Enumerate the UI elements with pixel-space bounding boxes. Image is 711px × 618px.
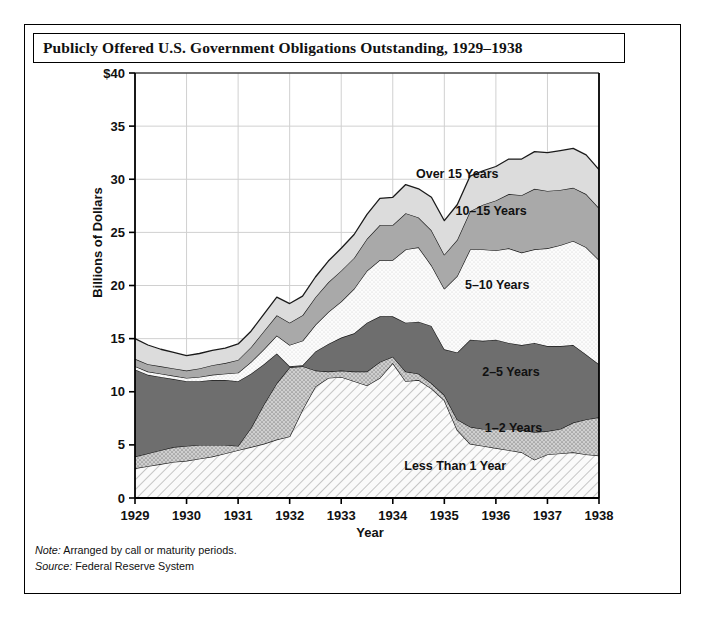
x-tick-label: 1932 (275, 508, 304, 523)
y-axis-title: Billions of Dollars (90, 163, 105, 323)
note-line: Note: Arranged by call or maturity perio… (35, 543, 237, 559)
y-tick-label: 5 (118, 437, 125, 452)
x-tick-label: 1938 (585, 508, 614, 523)
band-label: Over 15 Years (416, 167, 499, 181)
note-prefix: Note: (35, 544, 61, 556)
y-tick-label: $40 (103, 66, 125, 81)
band-label: Less Than 1 Year (404, 459, 506, 473)
x-axis-ticks: 1929193019311932193319341935193619371938 (121, 498, 614, 523)
note-body: Arranged by call or maturity periods. (61, 544, 237, 556)
x-axis-title: Year (135, 525, 605, 540)
x-tick-label: 1935 (430, 508, 459, 523)
source-line: Source: Federal Reserve System (35, 559, 237, 575)
y-tick-label: 15 (111, 331, 125, 346)
x-tick-label: 1933 (327, 508, 356, 523)
source-prefix: Source: (35, 560, 72, 572)
band-label: 1–2 Years (485, 421, 543, 435)
x-tick-label: 1936 (481, 508, 510, 523)
x-tick-label: 1934 (378, 508, 408, 523)
y-tick-label: 25 (111, 225, 125, 240)
y-tick-label: 30 (111, 172, 125, 187)
y-tick-label: 10 (111, 384, 125, 399)
figure-notes: Note: Arranged by call or maturity perio… (35, 543, 237, 574)
y-tick-label: 20 (111, 278, 125, 293)
y-tick-label: 35 (111, 119, 125, 134)
x-tick-label: 1929 (121, 508, 150, 523)
stacked-area-chart: 05101520253035$40 1929193019311932193319… (25, 25, 682, 595)
plot-area-wrapper: 05101520253035$40 1929193019311932193319… (25, 25, 682, 595)
band-label: 2–5 Years (482, 365, 540, 379)
x-tick-label: 1930 (172, 508, 201, 523)
x-tick-label: 1937 (533, 508, 562, 523)
chart-figure: Publicly Offered U.S. Government Obligat… (24, 24, 681, 594)
source-body: Federal Reserve System (72, 560, 194, 572)
band-label: 10–15 Years (455, 204, 526, 218)
y-tick-label: 0 (118, 491, 125, 506)
band-label: 5–10 Years (465, 278, 529, 292)
y-axis-ticks: 05101520253035$40 (103, 66, 135, 506)
x-tick-label: 1931 (224, 508, 253, 523)
